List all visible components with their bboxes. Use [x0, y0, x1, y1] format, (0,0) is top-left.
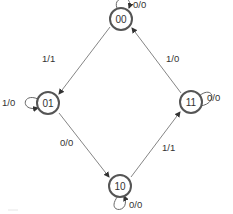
edge-01-to-10: 0/0 [59, 113, 109, 177]
svg-text:1/0: 1/0 [166, 53, 179, 64]
svg-text:0/0: 0/0 [133, 0, 146, 10]
edge-11-to-00: 1/0 [132, 28, 181, 93]
state-diagram: 1/1 1/0 0/0 1/1 0/0 1/0 0/0 0/0 00 01 [0, 0, 233, 214]
state-00: 00 [110, 8, 132, 30]
svg-text:01: 01 [42, 98, 54, 109]
svg-text:00: 00 [115, 14, 127, 25]
svg-text:10: 10 [114, 181, 126, 192]
edge-00-to-01: 1/1 [42, 27, 110, 94]
loop-01: 1/0 [2, 97, 38, 109]
svg-text:1/1: 1/1 [162, 142, 175, 153]
edge-10-to-11: 1/1 [131, 112, 180, 177]
svg-text:0/0: 0/0 [207, 92, 220, 103]
state-01: 01 [37, 92, 59, 114]
svg-text:0/0: 0/0 [129, 199, 142, 210]
svg-text:1/1: 1/1 [42, 53, 55, 64]
state-11: 11 [180, 91, 202, 113]
svg-text:0/0: 0/0 [60, 137, 73, 148]
loop-10: 0/0 [114, 196, 142, 210]
state-10: 10 [109, 175, 131, 197]
svg-text:1/0: 1/0 [2, 97, 15, 108]
svg-text:11: 11 [186, 97, 197, 108]
